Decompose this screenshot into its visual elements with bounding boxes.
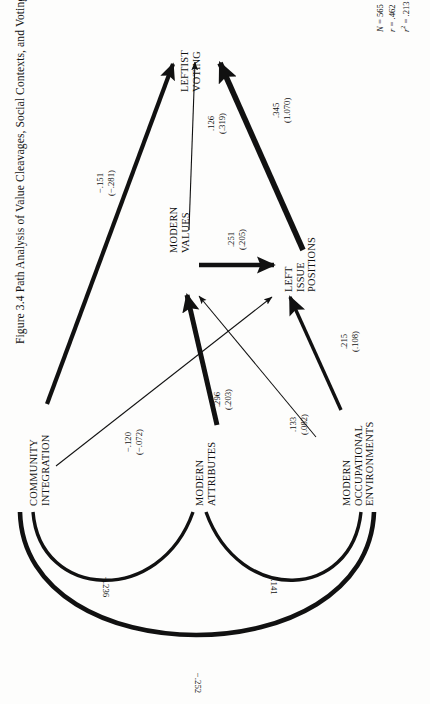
node-leftist-voting-line2: VOTING	[191, 50, 203, 92]
coef-community-to-issues-b: (−.072)	[134, 429, 145, 455]
coef-community-to-voting-b: (−.281)	[106, 170, 117, 196]
coef-community-to-voting-beta: −.151	[95, 170, 106, 196]
node-modern-occupational-environments-line2: OCCUPATIONAL	[353, 422, 365, 506]
arc-attributes-occupational	[206, 512, 361, 580]
edge-issues-to-voting	[220, 63, 303, 250]
node-modern-values-line2: VALUES	[180, 207, 192, 253]
coef-values-to-voting-beta: .126	[206, 113, 217, 134]
coef-attributes-to-issues-beta: .133	[288, 414, 299, 435]
coef-community-to-issues: −.120 (−.072)	[123, 429, 146, 455]
node-modern-values-line1: MODERN	[168, 207, 180, 253]
coef-attributes-to-issues-b: (.082)	[299, 414, 310, 435]
node-community-integration-line1: COMMUNITY	[28, 435, 40, 506]
coef-community-to-issues-beta: −.120	[123, 429, 134, 455]
node-community-integration-line2: INTEGRATION	[40, 435, 52, 506]
coef-occupational-to-values: .215 (.108)	[339, 331, 362, 352]
node-modern-occupational-environments[interactable]: MODERN OCCUPATIONAL ENVIRONMENTS	[341, 422, 376, 506]
path-diagram-svg	[0, 0, 430, 704]
coef-issues-to-voting-b: (1.070)	[282, 98, 293, 123]
coef-occupational-to-values-beta: .215	[339, 331, 350, 352]
node-community-integration[interactable]: COMMUNITY INTEGRATION	[28, 435, 51, 506]
coef-values-to-issues-b: (.205)	[237, 229, 248, 250]
coef-issues-to-voting: .345 (1.070)	[271, 98, 294, 123]
arc-community-attributes	[33, 512, 193, 580]
coef-attributes-to-values: .296 (.203)	[212, 389, 235, 410]
figure-canvas: Figure 3.4 Path Analysis of Value Cleava…	[0, 0, 430, 704]
coef-values-to-voting: .126 (.319)	[206, 113, 229, 134]
node-modern-attributes[interactable]: MODERN ATTRIBUTES	[194, 442, 217, 506]
node-leftist-voting-line1: LEFTIST	[179, 50, 191, 92]
edge-community-to-voting	[47, 64, 173, 404]
corr-community-occupational: −.252	[193, 673, 203, 693]
coef-community-to-voting: −.151 (−.281)	[95, 170, 118, 196]
node-modern-occupational-environments-line1: MODERN	[341, 422, 353, 506]
node-modern-occupational-environments-line3: ENVIRONMENTS	[364, 422, 376, 506]
node-left-issue-positions-line2: ISSUE	[295, 237, 307, 292]
coef-occupational-to-values-b: (.108)	[350, 331, 361, 352]
node-left-issue-positions-line1: LEFT	[283, 237, 295, 292]
edge-community-to-issues	[56, 297, 272, 466]
node-modern-attributes-line1: MODERN	[194, 442, 206, 506]
coef-issues-to-voting-beta: .345	[271, 98, 282, 123]
node-modern-attributes-line2: ATTRIBUTES	[206, 442, 218, 506]
coef-values-to-voting-b: (.319)	[217, 113, 228, 134]
coef-values-to-issues-beta: .251	[226, 229, 237, 250]
node-modern-values[interactable]: MODERN VALUES	[168, 207, 191, 253]
coef-attributes-to-values-b: (.203)	[223, 389, 234, 410]
corr-attributes-occupational: .141	[269, 579, 279, 594]
node-left-issue-positions-line3: POSITIONS	[306, 237, 318, 292]
coef-attributes-to-values-beta: .296	[212, 389, 223, 410]
corr-community-attributes: −.236	[101, 577, 111, 597]
node-left-issue-positions[interactable]: LEFT ISSUE POSITIONS	[283, 237, 318, 292]
coef-values-to-issues: .251 (.205)	[226, 229, 249, 250]
edge-occupational-to-values	[290, 297, 341, 410]
coef-attributes-to-issues: .133 (.082)	[288, 414, 311, 435]
node-leftist-voting[interactable]: LEFTIST VOTING	[179, 50, 202, 92]
